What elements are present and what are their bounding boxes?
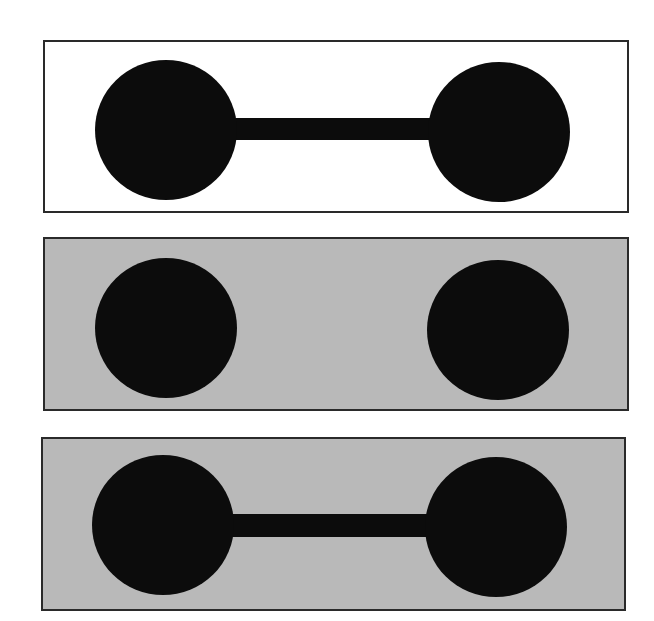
panel-connected-white [43,40,629,213]
left-disk [95,60,237,200]
figure [0,0,654,621]
right-disk [425,457,567,597]
right-disk [427,260,569,400]
panel-connected-gray [41,437,626,611]
connecting-bar [231,514,431,537]
right-disk [428,62,570,202]
left-disk [95,258,237,398]
panel-separate-gray [43,237,629,411]
connecting-bar [234,118,432,140]
left-disk [92,455,234,595]
